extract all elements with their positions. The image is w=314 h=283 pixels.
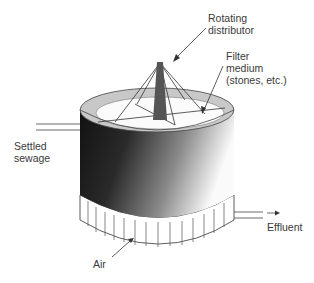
label-air: Air [93, 258, 106, 270]
air-arrow [112, 238, 134, 257]
label-rotating-distributor: Rotating distributor [208, 12, 254, 36]
label-filter-medium: Filter medium (stones, etc.) [226, 50, 287, 86]
outlet-pipe [234, 211, 280, 219]
distributor-arrow [173, 28, 206, 62]
inlet-pipe [36, 124, 80, 130]
label-settled-sewage: Settled sewage [14, 140, 50, 164]
label-effluent: Effluent [267, 221, 302, 233]
